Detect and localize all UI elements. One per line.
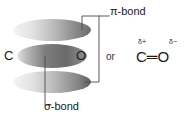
pi-orbital-top-lobe [13,19,91,41]
delta-positive-label: δ+ [138,38,146,45]
atom-label-carbon: C [4,49,13,62]
delta-negative-label: δ− [169,38,177,45]
carbonyl-orbital-diagram: C O π-bond σ-bond or δ+ δ− C═O [0,0,191,122]
conjunction-label: or [106,52,115,62]
sigma-bond-label: σ-bond [44,101,79,112]
lewis-formula-group: δ+ δ− C═O [136,38,186,70]
carbonyl-formula: C═O [136,48,169,65]
pi-bond-label: π-bond [110,6,146,17]
atom-label-oxygen: O [76,49,86,62]
pi-orbital-bottom-lobe [13,71,91,93]
